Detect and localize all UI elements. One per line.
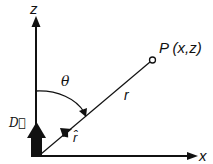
x-axis-label: x — [199, 148, 207, 163]
dipole-diagram — [0, 0, 213, 164]
point-p-label: P (x,z) — [159, 40, 202, 55]
point-p — [150, 57, 156, 63]
r-label: r — [124, 88, 129, 102]
radius-line — [41, 62, 150, 154]
x-axis — [36, 152, 198, 160]
r-hat-label: r̂ — [73, 131, 77, 144]
dipole-label: D⃗ — [9, 117, 26, 129]
z-axis-label: z — [30, 1, 38, 16]
r-hat-arrow — [60, 128, 72, 140]
theta-label: θ — [61, 74, 69, 88]
theta-arc — [36, 91, 87, 117]
